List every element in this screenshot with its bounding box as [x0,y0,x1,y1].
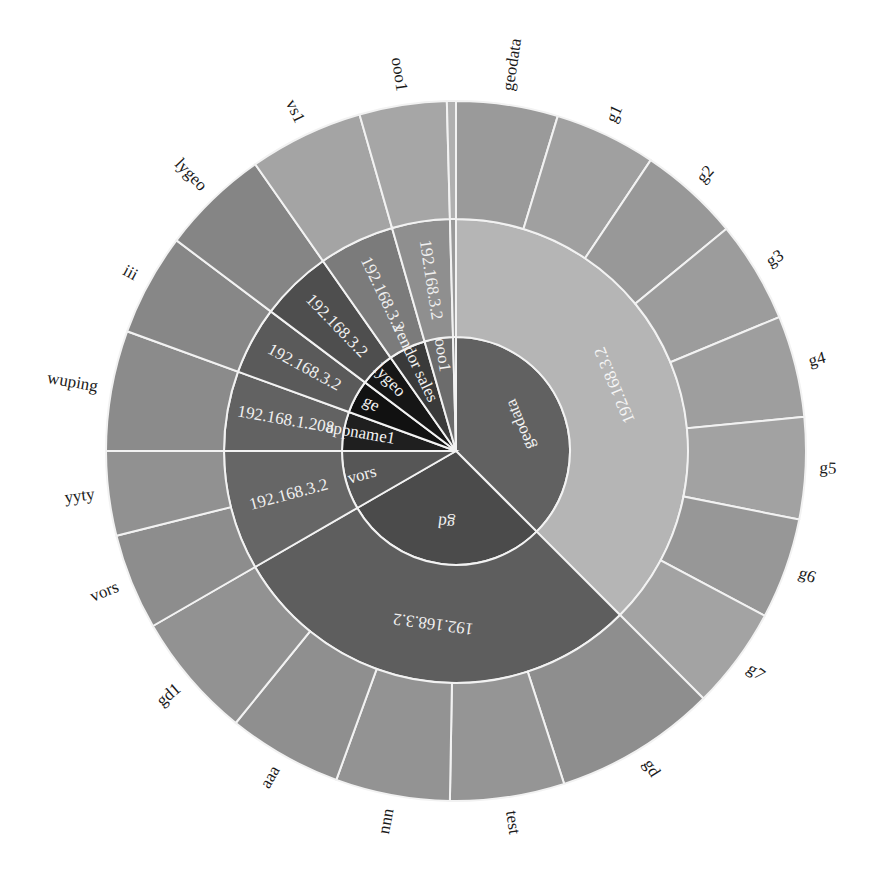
label-outer-iii-16: iii [120,261,142,285]
label-outer-aaa-11: aaa [256,762,284,791]
label-outer-gd-8: gd [639,756,664,781]
sunburst-svg: geodatagdvorsappname1gelygeovendor sales… [0,0,880,869]
label-outer-geodata-0: geodata [499,37,526,93]
label-outer-g5-5: g5 [819,458,837,478]
label-outer-g1-1: g1 [602,102,626,125]
label-outer-g2-2: g2 [692,161,717,186]
label-outer-g7-7: g7 [744,659,769,685]
label-outer-wuping-15: wuping [46,368,100,396]
label-outer-ooo1-19: ooo1 [388,56,412,92]
label-inner-gd-1: gd [436,512,456,533]
label-outer-nnn-10: nnn [374,806,397,835]
label-outer-g6-6: g6 [796,563,818,587]
label-outer-g3-3: g3 [762,246,786,271]
label-outer-yyty-14: yyty [63,484,96,507]
label-outer-test-9: test [502,809,524,835]
label-outer-vors-13: vors [87,577,121,606]
label-outer-gd1-12: gd1 [153,679,185,710]
label-outer-g4-4: g4 [806,348,828,371]
label-outer-lygeo-17: lygeo [171,154,211,194]
sunburst-chart: geodatagdvorsappname1gelygeovendor sales… [0,0,880,869]
label-outer-vs1-18: vs1 [282,96,309,126]
